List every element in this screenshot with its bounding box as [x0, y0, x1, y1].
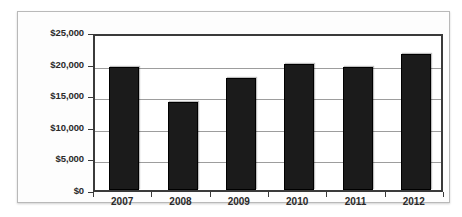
- gridline-15000: [95, 99, 441, 100]
- x-axis-label-2011: 2011: [326, 196, 384, 207]
- y-axis-label-15000: $15,000: [18, 90, 84, 101]
- y-axis-tick-20000: [88, 66, 94, 67]
- gridline-20000: [95, 68, 441, 69]
- x-axis-label-2010: 2010: [268, 196, 326, 207]
- y-axis-label-5000: $5,000: [18, 153, 84, 164]
- x-axis-label-2008: 2008: [151, 196, 209, 207]
- chart-figure: $0$5,000$10,000$15,000$20,000$25,000 200…: [17, 11, 450, 203]
- y-axis-tick-15000: [88, 97, 94, 98]
- y-axis-label-20000: $20,000: [18, 59, 84, 70]
- bar-2011: [343, 67, 373, 190]
- bar-2008: [168, 102, 198, 190]
- y-axis-label-0: $0: [18, 185, 84, 196]
- y-axis-label-25000: $25,000: [18, 27, 84, 38]
- y-axis-tick-10000: [88, 129, 94, 130]
- bar-2012: [401, 54, 431, 191]
- gridline-5000: [95, 162, 441, 163]
- bar-2007: [109, 67, 139, 190]
- x-axis-label-2012: 2012: [385, 196, 443, 207]
- y-axis-label-10000: $10,000: [18, 122, 84, 133]
- y-axis-tick-5000: [88, 160, 94, 161]
- gridline-10000: [95, 131, 441, 132]
- x-axis-label-2007: 2007: [93, 196, 151, 207]
- y-axis-tick-25000: [88, 34, 94, 35]
- x-axis-label-2009: 2009: [210, 196, 268, 207]
- plot-area: [93, 34, 443, 192]
- bar-2009: [226, 78, 256, 190]
- bar-2010: [284, 64, 314, 190]
- x-axis-tick-6: [443, 192, 444, 197]
